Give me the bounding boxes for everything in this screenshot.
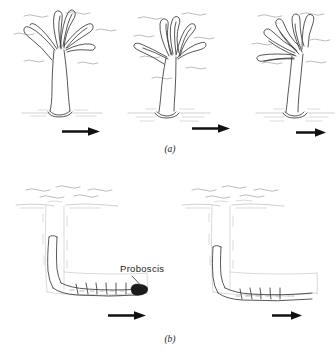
flow-arrow-b2 <box>272 311 302 320</box>
sediment-surface-b1 <box>16 201 118 208</box>
burrow-b2 <box>211 206 317 295</box>
substrate-a3 <box>256 109 334 121</box>
substrate-a2 <box>128 109 210 121</box>
proboscis-label: Proboscis <box>120 263 164 274</box>
flow-arrow-a2 <box>192 124 230 133</box>
stalk-a1 <box>50 50 70 115</box>
panel-b: Proboscis <box>16 186 318 345</box>
frame-a-2 <box>128 13 230 133</box>
proboscis-annotation: Proboscis <box>120 263 164 291</box>
frame-a-1 <box>14 10 116 136</box>
tentacles-a3 <box>257 14 314 61</box>
sediment-surface-b2 <box>182 200 284 208</box>
larva-b2 <box>213 246 313 301</box>
stalk-a2 <box>157 57 176 116</box>
figure-canvas: (a) <box>0 0 336 353</box>
caption-panel-a: (a) <box>164 144 175 155</box>
frame-a-3 <box>252 13 334 137</box>
tentacles-a2 <box>134 17 206 65</box>
burrow-texture-b2 <box>209 214 310 296</box>
frame-b-2 <box>182 186 318 320</box>
tentacles-a1 <box>24 10 95 60</box>
flow-arrow-a3 <box>296 128 326 137</box>
stalk-a3 <box>285 54 304 116</box>
water-squiggles-a3 <box>252 13 330 64</box>
frame-b-1: Proboscis <box>16 186 164 320</box>
flow-arrow-a1 <box>62 127 100 136</box>
panel-a: (a) <box>14 10 334 155</box>
water-squiggles-b2 <box>192 186 278 199</box>
figure-root: (a) <box>0 0 336 353</box>
caption-panel-b: (b) <box>164 334 175 345</box>
burrow-texture-b1 <box>43 214 142 296</box>
water-squiggles-b1 <box>26 186 112 199</box>
proboscis-b1 <box>131 284 148 295</box>
flow-arrow-b1 <box>108 311 146 320</box>
